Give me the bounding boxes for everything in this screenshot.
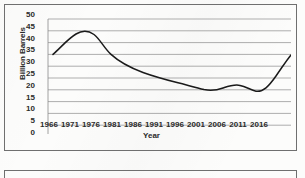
y-tick-label-15: 15 (9, 94, 35, 102)
y-tick-label-50: 50 (9, 11, 35, 19)
y-tick-label-20: 20 (9, 82, 35, 90)
y-tick-label-0: 0 (9, 129, 35, 137)
y-tick-label-30: 30 (9, 58, 35, 66)
secondary-figure-box (4, 170, 297, 178)
y-tick-label-35: 35 (9, 46, 35, 54)
x-tick-label-2016: 2016 (244, 121, 274, 129)
y-tick-label-40: 40 (9, 35, 35, 43)
y-tick-label-25: 25 (9, 70, 35, 78)
y-tick-label-45: 45 (9, 23, 35, 31)
data-series-billion-barrels (53, 31, 291, 91)
line-chart-svg (43, 10, 291, 134)
chart-figure-box: Billion Barrels Year 50 45 40 35 30 25 2… (4, 4, 297, 151)
gridlines (48, 19, 291, 134)
plot-area (43, 10, 291, 134)
y-tick-label-5: 5 (9, 117, 35, 125)
y-tick-label-10: 10 (9, 105, 35, 113)
